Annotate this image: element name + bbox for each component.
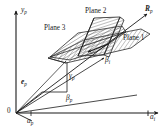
diagram-canvas [0,0,167,131]
plane-3-label: Plane 3 [44,25,65,32]
axis-group [16,11,158,121]
origin-label: 0 [7,108,11,115]
vector-ep [16,61,66,113]
a-p-axis-label: ap [27,117,33,124]
plane-1-label: Plane 1 [123,35,144,42]
angle-gamma-p-label: γp [69,72,75,79]
angle-beta-p-label: βp [66,94,72,101]
ray-beta-i [16,58,104,113]
a-i-axis-label: ai [150,113,155,120]
vector-plane-diagram: yp ai ap 0 Plane 2 Plane 3 Plane 1 Rp ep… [0,0,167,131]
projection-construction [16,62,137,113]
vector-Rp [16,14,147,113]
angle-beta-i-label: βi [105,56,110,63]
vector-Rp-label: Rp [145,5,153,12]
plane-2-label: Plane 2 [85,8,106,15]
vector-ep-label: ep [21,78,27,85]
y-axis-label: yp [21,6,27,13]
